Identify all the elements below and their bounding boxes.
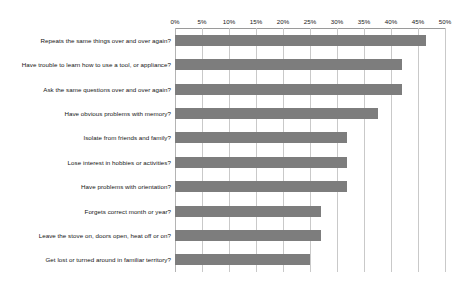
x-tick-label: 0% <box>170 18 179 25</box>
category-label: Ask the same questions over and over aga… <box>43 86 171 93</box>
bar <box>175 132 347 143</box>
bar-row <box>175 206 445 217</box>
category-label: Have problems with orientation? <box>81 183 171 190</box>
bar-series <box>175 28 445 272</box>
bar-row <box>175 157 445 168</box>
x-tick-label: 40% <box>385 18 398 25</box>
x-tick-label: 35% <box>358 18 371 25</box>
x-tick-label: 15% <box>250 18 263 25</box>
bar <box>175 230 321 241</box>
x-tick-label: 10% <box>223 18 236 25</box>
category-label: Lose interest in hobbies or activities? <box>68 159 171 166</box>
bar-row <box>175 181 445 192</box>
bar <box>175 35 426 46</box>
bar-row <box>175 35 445 46</box>
category-label: Isolate from friends and family? <box>83 134 171 141</box>
bar-row <box>175 230 445 241</box>
y-axis-category-labels: Repeats the same things over and over ag… <box>0 28 171 272</box>
plot-area <box>175 28 445 272</box>
category-label: Have obvious problems with memory? <box>64 110 171 117</box>
category-label: Have trouble to learn how to use a tool,… <box>22 61 171 68</box>
bar <box>175 254 310 265</box>
category-label: Get lost or turned around in familiar te… <box>45 256 171 263</box>
bar-row <box>175 254 445 265</box>
bar <box>175 157 347 168</box>
bar-row <box>175 59 445 70</box>
x-tick-label: 30% <box>331 18 344 25</box>
x-tick-label: 5% <box>197 18 206 25</box>
bar-row <box>175 132 445 143</box>
x-tick-label: 25% <box>304 18 317 25</box>
bar <box>175 84 402 95</box>
bar-row <box>175 84 445 95</box>
bar <box>175 108 378 119</box>
bar <box>175 206 321 217</box>
gridline <box>445 28 446 272</box>
bar <box>175 59 402 70</box>
category-label: Repeats the same things over and over ag… <box>41 37 172 44</box>
x-tick-label: 50% <box>439 18 452 25</box>
bar-row <box>175 108 445 119</box>
bar-chart: 0%5%10%15%20%25%30%35%40%45%50% Repeats … <box>0 0 458 284</box>
category-label: Forgets correct month or year? <box>85 208 171 215</box>
bar <box>175 181 347 192</box>
x-tick-label: 20% <box>277 18 290 25</box>
x-axis-tick-labels: 0%5%10%15%20%25%30%35%40%45%50% <box>0 18 458 28</box>
x-tick-label: 45% <box>412 18 425 25</box>
x-tick-mark <box>445 46 446 49</box>
category-label: Leave the stove on, doors open, heat off… <box>39 232 171 239</box>
